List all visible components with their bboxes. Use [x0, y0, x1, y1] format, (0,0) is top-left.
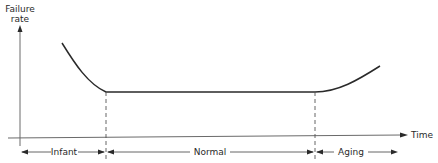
- y-axis-arrowhead-icon: [18, 25, 23, 32]
- arrow-left-icon: [107, 150, 114, 155]
- arrow-right-icon: [307, 150, 314, 155]
- region-label-normal: Normal: [194, 147, 227, 157]
- region-normal: Normal: [107, 147, 314, 157]
- x-axis-label: Time: [410, 130, 433, 140]
- y-axis-label-line1: Failure: [5, 4, 35, 14]
- region-aging: Aging: [316, 147, 398, 157]
- arrow-right-icon: [391, 150, 398, 155]
- x-axis: Time: [8, 130, 433, 140]
- failure-rate-curve: [62, 43, 380, 92]
- arrow-left-icon: [316, 150, 323, 155]
- region-label-infant: Infant: [51, 147, 78, 157]
- y-axis-label-line2: rate: [11, 14, 30, 24]
- region-label-aging: Aging: [338, 147, 364, 157]
- y-axis: Failure rate: [5, 4, 35, 146]
- arrow-right-icon: [98, 150, 105, 155]
- x-axis-arrowhead-icon: [400, 133, 408, 138]
- region-infant: Infant: [21, 147, 105, 157]
- bathtub-curve-diagram: Failure rate Time Infant Normal Aging: [0, 0, 438, 163]
- arrow-left-icon: [21, 150, 28, 155]
